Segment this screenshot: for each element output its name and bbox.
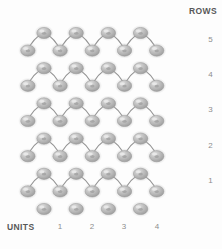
lattice-node [115, 78, 135, 94]
diagram-canvas: ROWS UNITS 54321 1234 [0, 0, 222, 249]
lattice-node [18, 148, 38, 164]
lattice-node [99, 25, 119, 41]
lattice-node [66, 201, 86, 217]
lattice-node [99, 95, 119, 111]
lattice-node [50, 113, 70, 129]
lattice-node [131, 25, 151, 41]
units-axis-title: UNITS [7, 222, 35, 232]
lattice-node [50, 148, 70, 164]
lattice-node [50, 78, 70, 94]
lattice-node [83, 43, 103, 59]
row-tick-4: 4 [203, 70, 213, 79]
lattice-node [83, 113, 103, 129]
lattice-node [147, 113, 167, 129]
lattice-node [147, 148, 167, 164]
lattice-node [34, 131, 54, 147]
rows-axis-title: ROWS [189, 6, 217, 16]
unit-tick-2: 2 [86, 222, 98, 231]
lattice-node [66, 25, 86, 41]
lattice-node [34, 60, 54, 76]
lattice-node [131, 201, 151, 217]
lattice-node [34, 25, 54, 41]
lattice-node [50, 43, 70, 59]
lattice-node [131, 95, 151, 111]
lattice-node [18, 43, 38, 59]
lattice-node [147, 183, 167, 199]
lattice-node [66, 131, 86, 147]
lattice-node [66, 95, 86, 111]
unit-tick-3: 3 [118, 222, 130, 231]
lattice-nodes [18, 25, 166, 217]
lattice-node [147, 43, 167, 59]
lattice-node [50, 183, 70, 199]
unit-tick-1: 1 [54, 222, 66, 231]
lattice-node [131, 60, 151, 76]
lattice-node [115, 183, 135, 199]
unit-tick-4: 4 [151, 222, 163, 231]
row-tick-2: 2 [203, 141, 213, 150]
lattice-diagram [0, 0, 222, 249]
lattice-node [131, 166, 151, 182]
lattice-node [83, 183, 103, 199]
lattice-node [147, 78, 167, 94]
lattice-node [115, 43, 135, 59]
lattice-node [34, 95, 54, 111]
row-tick-5: 5 [203, 35, 213, 44]
lattice-node [99, 201, 119, 217]
lattice-node [115, 148, 135, 164]
lattice-node [34, 201, 54, 217]
lattice-node [66, 166, 86, 182]
lattice-node [34, 166, 54, 182]
row-tick-1: 1 [203, 176, 213, 185]
lattice-node [99, 131, 119, 147]
lattice-node [115, 113, 135, 129]
row-tick-3: 3 [203, 105, 213, 114]
lattice-node [83, 78, 103, 94]
lattice-node [99, 166, 119, 182]
lattice-node [18, 113, 38, 129]
lattice-node [131, 131, 151, 147]
lattice-node [18, 78, 38, 94]
lattice-node [83, 148, 103, 164]
lattice-node [18, 183, 38, 199]
lattice-node [99, 60, 119, 76]
lattice-node [66, 60, 86, 76]
